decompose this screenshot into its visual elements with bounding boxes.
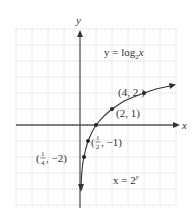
- axes: [16, 30, 180, 208]
- svg-text:1: 1: [41, 150, 45, 158]
- svg-text:, −2): , −2): [46, 152, 67, 165]
- svg-text:2: 2: [96, 143, 100, 151]
- y-axis-arrow-icon: [77, 30, 83, 37]
- x-axis-label: x: [181, 119, 187, 131]
- label-point-half: ( 1 2 , −1): [91, 134, 122, 151]
- svg-text:1: 1: [96, 134, 100, 142]
- svg-text:(: (: [91, 136, 95, 149]
- label-point-quarter: ( 1 4 , −2): [36, 150, 67, 167]
- equation-log: y = log2x: [104, 46, 144, 61]
- svg-text:, −1): , −1): [101, 136, 122, 149]
- svg-text:(: (: [36, 152, 40, 165]
- log-graph: y x y = log2x x = 2y (4, 2 ) (2, 1) ( 1 …: [0, 0, 194, 219]
- x-axis-arrow-icon: [173, 122, 180, 128]
- equation-exp: x = 2y: [113, 173, 140, 186]
- point-half: [86, 139, 90, 143]
- label-point-2-1: (2, 1): [116, 107, 140, 120]
- point-one: [94, 123, 98, 127]
- curve-end-arrow-icon: [169, 83, 176, 89]
- point-two: [110, 107, 114, 111]
- label-point-4-2: (4, 2 ): [118, 86, 145, 99]
- point-quarter: [82, 155, 86, 159]
- grid: [16, 29, 176, 205]
- curve-start-arrow-icon: [78, 184, 84, 192]
- y-axis-label: y: [75, 14, 81, 26]
- svg-text:4: 4: [41, 159, 45, 167]
